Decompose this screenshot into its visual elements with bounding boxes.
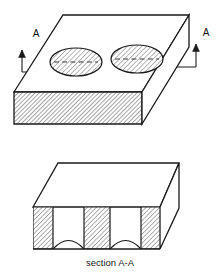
elliptical-hole-right <box>111 45 163 73</box>
cut-label-left: A <box>33 28 40 39</box>
drawing-canvas: A A <box>0 0 219 275</box>
section-top-face <box>33 163 179 207</box>
block-front-face-hatched <box>14 92 142 124</box>
section-caption: section A-A <box>86 257 135 268</box>
engineering-drawing-figure: A A <box>0 0 219 275</box>
section-pillar-middle <box>84 207 110 249</box>
cut-label-right: A <box>203 27 210 38</box>
section-pillar-left <box>33 207 53 249</box>
section-pillar-right <box>141 207 160 249</box>
elliptical-hole-left <box>50 48 102 76</box>
